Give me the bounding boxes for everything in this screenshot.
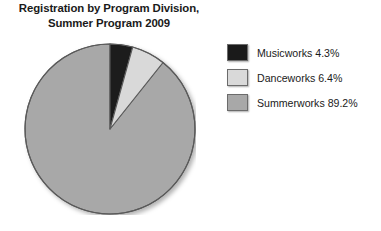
legend-swatch-musicworks <box>227 44 248 61</box>
chart-legend: Musicworks 4.3% Danceworks 6.4% Summerwo… <box>227 40 379 115</box>
chart-title-line-2: Summer Program 2009 <box>4 16 214 31</box>
chart-title-line-1: Registration by Program Division, <box>4 1 214 16</box>
pie-chart-figure: Registration by Program Division, Summer… <box>0 0 381 231</box>
legend-label-summerworks: Summerworks 89.2% <box>257 97 358 109</box>
chart-title: Registration by Program Division, Summer… <box>4 1 214 31</box>
legend-item-summerworks: Summerworks 89.2% <box>227 90 379 115</box>
pie-graphic <box>24 43 196 215</box>
legend-label-musicworks: Musicworks 4.3% <box>257 47 339 59</box>
pie-svg <box>24 43 196 215</box>
legend-item-danceworks: Danceworks 6.4% <box>227 65 379 90</box>
legend-swatch-summerworks <box>227 94 248 111</box>
legend-label-danceworks: Danceworks 6.4% <box>257 72 342 84</box>
legend-swatch-danceworks <box>227 69 248 86</box>
pie-slices-group <box>25 44 195 214</box>
legend-item-musicworks: Musicworks 4.3% <box>227 40 379 65</box>
